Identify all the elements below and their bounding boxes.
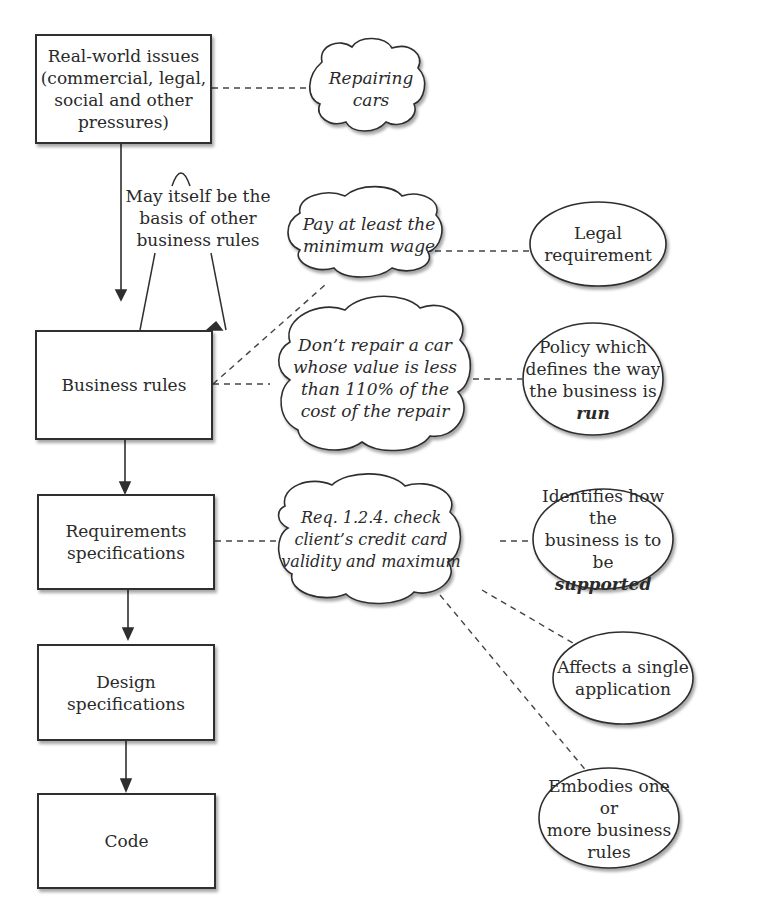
box-design-specifications: Design specifications bbox=[37, 644, 215, 741]
box-real-world-issues: Real-world issues (commercial, legal, so… bbox=[35, 34, 212, 144]
box-code: Code bbox=[37, 793, 216, 889]
cloud-label: Repairing cars bbox=[329, 67, 414, 111]
box-label: Business rules bbox=[62, 374, 187, 396]
oval-emphasis: supported bbox=[555, 573, 652, 595]
oval-label: Identifies how the business is to be bbox=[533, 485, 673, 573]
cloud-label: Req. 1.2.4. check client’s credit card v… bbox=[281, 507, 460, 573]
oval-label: Embodies one or more business rules bbox=[539, 775, 679, 863]
oval-single-app-text: Affects a single application bbox=[553, 654, 693, 702]
oval-legal-text: Legal requirement bbox=[530, 222, 666, 266]
cloud-req-124-text: Req. 1.2.4. check client’s credit card v… bbox=[278, 490, 464, 590]
cloud-repairing-cars-text: Repairing cars bbox=[312, 52, 430, 126]
box-label: Real-world issues (commercial, legal, so… bbox=[41, 45, 207, 133]
oval-emphasis: run bbox=[576, 402, 610, 424]
oval-embodies-text: Embodies one or more business rules bbox=[539, 784, 679, 854]
business-rules-diagram: Real-world issues (commercial, legal, so… bbox=[0, 0, 774, 907]
self-loop-note: May itself be the basis of other busines… bbox=[113, 185, 283, 251]
cloud-label: Pay at least the minimum wage bbox=[303, 213, 436, 257]
cloud-min-wage-text: Pay at least the minimum wage bbox=[294, 200, 444, 270]
oval-label: Legal requirement bbox=[530, 222, 666, 266]
cloud-label: Don’t repair a car whose value is less t… bbox=[293, 334, 457, 422]
box-label: Code bbox=[104, 830, 148, 852]
oval-label: Policy which defines the way the busines… bbox=[526, 336, 661, 402]
box-label: Requirements specifications bbox=[65, 520, 186, 564]
oval-label: Affects a single application bbox=[557, 656, 689, 700]
box-business-rules: Business rules bbox=[35, 330, 213, 440]
cloud-dont-repair-text: Don’t repair a car whose value is less t… bbox=[280, 312, 470, 444]
oval-policy-text: Policy which defines the way the busines… bbox=[523, 326, 663, 434]
box-requirements-specifications: Requirements specifications bbox=[37, 494, 215, 590]
oval-identifies-text: Identifies how the business is to be sup… bbox=[533, 494, 673, 586]
box-label: Design specifications bbox=[67, 671, 185, 715]
